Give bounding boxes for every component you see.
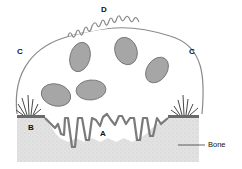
label-c-left: C xyxy=(17,48,23,56)
label-c-right: C xyxy=(189,48,195,56)
bone xyxy=(17,118,199,162)
sealing-zone-left xyxy=(17,115,45,118)
osteoclast-diagram: D C C B A Bone xyxy=(0,0,242,169)
osteoclast-illustration xyxy=(0,0,242,169)
label-bone: Bone xyxy=(208,141,226,149)
label-d: D xyxy=(101,6,107,14)
label-b: B xyxy=(28,124,34,132)
label-a: A xyxy=(100,130,106,138)
sealing-zone-right xyxy=(168,115,199,118)
